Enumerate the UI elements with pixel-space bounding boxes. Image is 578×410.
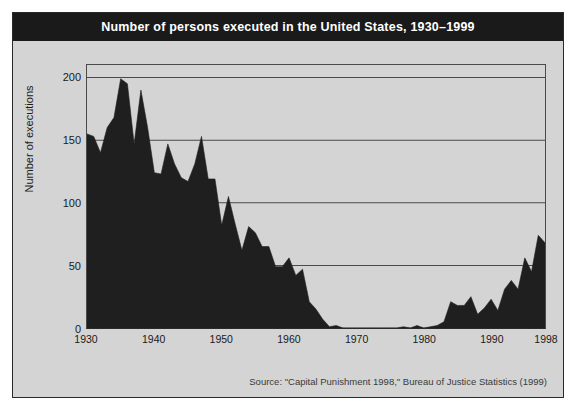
y-tick-label: 100 [63,197,81,209]
x-tick-label: 1950 [210,333,233,345]
area-chart-svg [87,65,545,328]
x-tick-label: 1940 [142,333,165,345]
plot-area [86,64,546,329]
x-tick-label: 1998 [534,333,557,345]
y-tick-label: 200 [63,71,81,83]
figure-panel: Number of persons executed in the United… [12,12,564,398]
x-tick-label: 1960 [277,333,300,345]
x-tick-label: 1990 [480,333,503,345]
page-title: Number of persons executed in the United… [101,20,475,34]
y-tick-label: 150 [63,134,81,146]
source-note: Source: "Capital Punishment 1998," Burea… [249,376,547,387]
x-tick-label: 1980 [413,333,436,345]
x-tick-label: 1930 [74,333,97,345]
chart-title-bar: Number of persons executed in the United… [13,13,563,41]
y-tick-label: 50 [69,260,81,272]
executions-area-series [87,79,545,328]
x-tick-label: 1970 [345,333,368,345]
x-axis-tick-labels: 19301940195019601970198019901998 [86,333,546,349]
y-axis-tick-labels: 200150100500 [33,64,81,329]
